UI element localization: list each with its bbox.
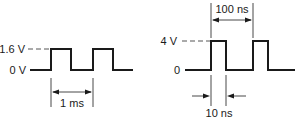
right-low-voltage-label: 0 — [174, 64, 180, 76]
right-waveform-group: 100 ns 4 V 0 10 ns — [160, 3, 295, 119]
right-high-voltage-label: 4 V — [160, 35, 177, 47]
right-pulse-train — [185, 41, 295, 70]
left-high-voltage-label: 1.6 V — [0, 43, 26, 55]
left-period-arrowhead-left — [52, 90, 59, 95]
right-period-arrowhead-left — [212, 18, 219, 23]
right-pulse-width-label: 10 ns — [206, 107, 233, 119]
right-pulse-width-arrowhead-left — [203, 94, 210, 99]
right-period-arrowhead-right — [245, 18, 252, 23]
right-pulse-width-arrowhead-right — [227, 94, 234, 99]
left-low-voltage-label: 0 V — [9, 64, 26, 76]
left-square-wave — [30, 49, 133, 70]
left-period-arrowhead-right — [85, 90, 92, 95]
left-waveform-group: 1.6 V 0 V 1 ms — [0, 43, 133, 109]
waveform-diagram: 1.6 V 0 V 1 ms 100 ns 4 V 0 10 ns — [0, 0, 297, 138]
right-period-label: 100 ns — [215, 3, 249, 15]
left-period-label: 1 ms — [60, 97, 84, 109]
